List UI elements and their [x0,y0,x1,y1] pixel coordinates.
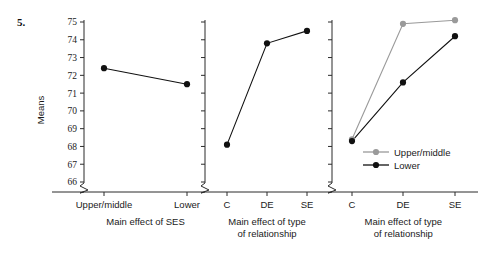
panel-main-effect-of-ses: 66676869707172737475Upper/middleLowerMai… [68,17,200,227]
data-point-marker [304,28,310,34]
legend-label: Upper/middle [394,147,451,158]
legend-label: Lower [394,160,420,171]
x-axis-tick-label: C [224,199,231,210]
legend-marker-swatch [373,162,379,168]
y-axis-tick-label: 72 [68,71,78,81]
y-axis-tick-label: 74 [68,35,78,45]
data-point-marker [452,33,458,39]
y-axis-tick-label: 73 [68,53,78,63]
legend-marker-swatch [373,149,379,155]
y-axis-tick-label: 68 [68,142,78,152]
chart-legend: Upper/middleLower [363,147,451,171]
data-point-marker [400,21,406,27]
panel-interaction-type-of-relationship-by-ses: CDESEMain effect of typeof relationship [328,17,461,239]
y-axis-tick-label: 71 [68,89,78,99]
data-point-marker [349,138,355,144]
series-line [352,36,455,141]
series-line [227,31,307,145]
y-axis-tick-label: 69 [68,124,78,134]
data-point-marker [101,65,107,71]
x-axis-tick-label: DE [260,199,273,210]
data-point-marker [400,79,406,85]
series-line [104,68,187,84]
x-axis-tick-label: Lower [174,199,200,210]
data-point-marker [452,17,458,23]
data-point-marker [184,81,190,87]
x-axis-tick-label: SE [449,199,462,210]
multi-panel-line-chart: Means 66676869707172737475Upper/middleLo… [0,0,491,256]
x-axis-tick-label: SE [301,199,314,210]
panel-caption: Main effect of type [365,216,442,227]
data-point-marker [264,40,270,46]
y-axis-tick-label: 66 [68,177,78,187]
y-axis-tick-label: 75 [68,17,78,27]
figure-root: 5. Means 66676869707172737475Upper/middl… [0,0,491,256]
panels-layer: 66676869707172737475Upper/middleLowerMai… [68,17,462,239]
panel-caption: of relationship [374,228,433,239]
panel-caption: of relationship [237,228,296,239]
panel-caption: Main effect of type [228,216,305,227]
y-axis-tick-label: 70 [68,106,78,116]
panel-caption: Main effect of SES [106,216,185,227]
x-axis-tick-label: DE [396,199,409,210]
panel-main-effect-of-type-of-relationship: CDESEMain effect of typeof relationship [201,20,313,239]
y-axis-title: Means [35,95,46,124]
y-axis-tick-label: 67 [68,160,78,170]
data-point-marker [224,142,230,148]
x-axis-tick-label: Upper/middle [76,199,133,210]
x-axis-tick-label: C [349,199,356,210]
